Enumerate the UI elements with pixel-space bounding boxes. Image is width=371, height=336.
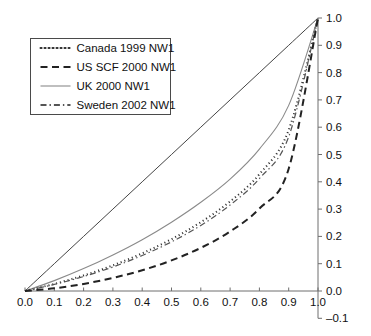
y-axis-tick-labels: 1.00.90.80.70.60.50.40.30.20.10.0–0.1	[326, 12, 348, 324]
x-tick-label: 0.1	[46, 296, 62, 308]
y-tick-label: 0.8	[326, 67, 342, 79]
legend-label: UK 2000 NW1	[77, 80, 151, 92]
lorenz-curve-chart: 0.00.10.20.30.40.50.60.70.80.91.0 1.00.9…	[0, 0, 371, 336]
y-tick-label: 1.0	[326, 12, 342, 24]
y-tick-label: 0.1	[326, 258, 342, 270]
x-tick-label: 0.5	[164, 296, 180, 308]
x-tick-label: 0.3	[105, 296, 121, 308]
x-tick-label: 0.0	[17, 296, 33, 308]
x-tick-label: 0.7	[222, 296, 238, 308]
y-tick-label: 0.2	[326, 230, 342, 242]
legend-label: Canada 1999 NW1	[77, 42, 175, 54]
y-tick-label: –0.1	[326, 312, 348, 324]
x-tick-label: 0.9	[281, 296, 297, 308]
y-tick-label: 0.6	[326, 121, 342, 133]
legend-label: Sweden 2002 NW1	[77, 99, 176, 111]
y-tick-label: 0.3	[326, 203, 342, 215]
chart-canvas: 0.00.10.20.30.40.50.60.70.80.91.0 1.00.9…	[0, 0, 371, 336]
chart-legend: Canada 1999 NW1US SCF 2000 NW1UK 2000 NW…	[31, 39, 177, 115]
y-tick-label: 0.4	[326, 176, 343, 188]
y-tick-label: 0.5	[326, 149, 342, 161]
y-tick-label: 0.7	[326, 94, 342, 106]
x-tick-label: 1.0	[310, 296, 326, 308]
y-tick-label: 0.9	[326, 39, 342, 51]
legend-label: US SCF 2000 NW1	[77, 61, 177, 73]
y-tick-label: 0.0	[326, 285, 342, 297]
x-tick-label: 0.4	[134, 296, 151, 308]
x-tick-label: 0.6	[193, 296, 209, 308]
x-axis-tick-labels: 0.00.10.20.30.40.50.60.70.80.91.0	[17, 296, 326, 308]
x-tick-label: 0.8	[251, 296, 267, 308]
x-tick-label: 0.2	[76, 296, 92, 308]
